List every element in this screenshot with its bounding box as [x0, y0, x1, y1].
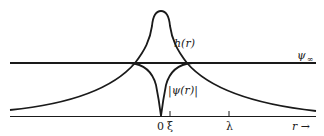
axis-variable-label: r → [292, 121, 310, 132]
infinity-subscript: ∞ [307, 55, 314, 64]
h-curve-label: h(r) [174, 38, 195, 49]
psi-infinity-label: ψ∞ [297, 50, 313, 61]
h-curve [10, 11, 316, 111]
tick-label-xi: ξ [167, 121, 173, 132]
r-variable: r [292, 120, 297, 133]
tick-label-lambda: λ [226, 121, 233, 132]
psi-infinity-symbol: ψ [297, 49, 306, 62]
psi-curve-label: |ψ(r)| [168, 85, 198, 96]
vortex-diagram [0, 0, 324, 136]
arrow-right-icon: → [301, 120, 310, 133]
tick-label-zero: 0 [157, 121, 164, 132]
